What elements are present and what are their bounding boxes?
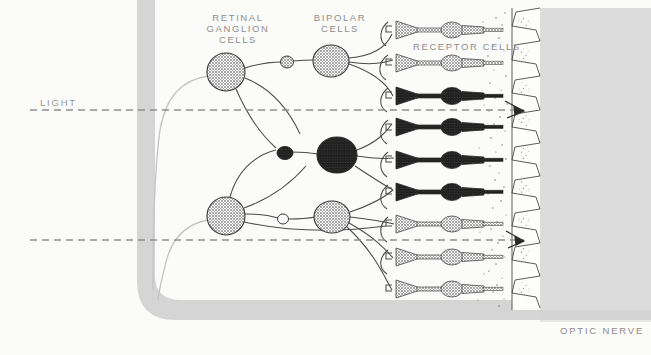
bipolar-cell-1 [313, 45, 349, 77]
amacrine-cell-group [277, 56, 294, 224]
receptor-cell-9 [396, 280, 503, 298]
bipolar-cell-2 [317, 137, 357, 173]
amacrine-cell-3 [278, 214, 289, 224]
diagram-canvas [0, 0, 651, 355]
bipolar-cell-3 [314, 201, 350, 233]
lower-sclera-strip [540, 310, 651, 322]
choroid-block [540, 8, 651, 310]
receptor-cell-5 [396, 151, 503, 169]
ganglion-cell-2 [207, 197, 245, 235]
bipolar-cell-group [313, 45, 357, 233]
receptor-cell-8 [396, 248, 503, 266]
amacrine-cell-1 [281, 56, 294, 68]
ganglion-cell-1 [207, 53, 245, 91]
receptor-cell-3 [396, 87, 503, 105]
receptor-cell-6 [396, 183, 503, 201]
receptor-cell-2 [396, 54, 503, 72]
neural-wiring [153, 22, 394, 300]
receptor-cell-4 [396, 118, 503, 136]
ganglion-cell-group [207, 53, 245, 235]
retina-diagram-figure: RETINAL GANGLION CELLS BIPOLAR CELLS REC… [0, 0, 651, 355]
receptor-cell-1 [396, 21, 503, 39]
receptor-cell-7 [396, 215, 503, 233]
receptor-cell-group [396, 21, 503, 298]
amacrine-cell-2 [277, 147, 293, 160]
